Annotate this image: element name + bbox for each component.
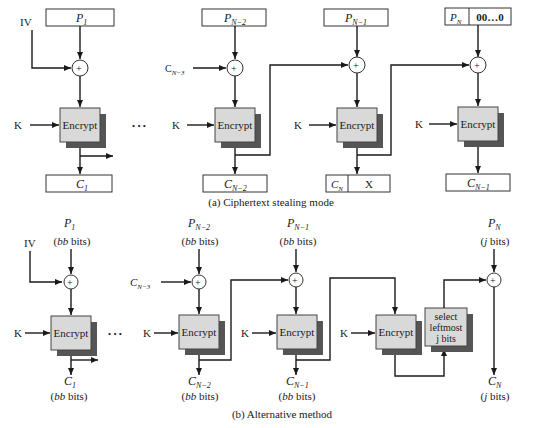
svg-text:Encrypt: Encrypt (340, 119, 375, 131)
caption-b: (b) Alternative method (232, 408, 333, 421)
svg-text:PN: PN (487, 216, 501, 232)
svg-text:Encrypt: Encrypt (280, 326, 315, 338)
svg-text:K: K (241, 327, 249, 339)
panel-a: P1 IV + Encrypt K C1 • • • PN−2 CN−3 (14, 8, 511, 209)
svg-text:K: K (340, 327, 348, 339)
svg-text:CN−2: CN−2 (188, 374, 211, 390)
svg-text:+: + (292, 275, 298, 286)
svg-text:Encrypt: Encrypt (379, 326, 414, 338)
svg-text:X: X (365, 178, 373, 190)
key-label: K (14, 119, 22, 131)
svg-text:PN−2: PN−2 (187, 216, 210, 232)
top-col-2: PN−2 CN−3 + Encrypt K CN−2 (a) Ciphertex… (165, 9, 348, 209)
bottom-col-1: P1 (bb bits) IV + Encrypt K C1 (bb bits) (14, 216, 98, 403)
svg-text:(bb bits): (bb bits) (182, 390, 219, 403)
svg-text:K: K (14, 327, 22, 339)
svg-text:+: + (67, 277, 73, 288)
svg-text:(bb bits): (bb bits) (54, 235, 91, 248)
top-col-4: PN 00…0 + Encrypt K CN−1 (415, 8, 511, 192)
top-col-3: PN−1 + Encrypt K CN X (294, 9, 469, 193)
svg-text:K: K (415, 118, 423, 130)
svg-text:+: + (195, 277, 201, 288)
svg-text:+: + (490, 275, 496, 286)
iv-wire (32, 30, 71, 68)
svg-text:+: + (353, 60, 359, 71)
svg-text:j bits: j bits (435, 333, 456, 344)
iv-label: IV (20, 16, 32, 28)
svg-text:CN−3: CN−3 (165, 63, 185, 77)
svg-text:+: + (474, 60, 480, 71)
svg-text:Encrypt: Encrypt (461, 118, 496, 130)
svg-text:(j bits): (j bits) (480, 235, 509, 248)
cts-diagram: P1 IV + Encrypt K C1 • • • PN−2 CN−3 (0, 0, 548, 428)
svg-text:CN−3: CN−3 (130, 276, 151, 291)
svg-text:Encrypt: Encrypt (63, 119, 98, 131)
svg-text:(bb bits): (bb bits) (51, 390, 88, 403)
svg-text:Encrypt: Encrypt (218, 119, 253, 131)
svg-text:(bb bits): (bb bits) (280, 235, 317, 248)
bottom-col-5: PN (j bits) + CN (j bits) (480, 216, 509, 403)
bottom-col-4: Encrypt K select leftmost j bits (340, 280, 486, 376)
svg-text:+: + (231, 63, 237, 74)
svg-text:PN−1: PN−1 (286, 216, 309, 232)
svg-text:(bb bits): (bb bits) (279, 390, 316, 403)
panel-b: P1 (bb bits) IV + Encrypt K C1 (bb bits)… (14, 216, 510, 421)
svg-text:00…0: 00…0 (476, 11, 504, 23)
svg-text:K: K (143, 327, 151, 339)
svg-text:• • •: • • • (108, 329, 122, 339)
svg-text:K: K (294, 119, 302, 131)
bottom-col-3: PN−1 (bb bits) + Encrypt K CN−1 (bb bits… (232, 216, 395, 421)
svg-text:Encrypt: Encrypt (182, 326, 217, 338)
svg-text:IV: IV (24, 237, 36, 249)
ellipsis: • • • (132, 121, 146, 131)
svg-text:(bb bits): (bb bits) (182, 235, 219, 248)
caption-a: (a) Ciphertext stealing mode (208, 196, 334, 209)
svg-text:Encrypt: Encrypt (54, 327, 89, 339)
bottom-col-2: PN−2 (bb bits) CN−3 + Encrypt K CN−2 (bb… (130, 216, 288, 403)
svg-text:CN: CN (488, 374, 502, 390)
svg-text:CN−1: CN−1 (286, 374, 309, 390)
svg-text:select: select (435, 311, 458, 322)
svg-text:P1: P1 (63, 216, 75, 232)
svg-text:+: + (76, 63, 82, 74)
svg-text:(j bits): (j bits) (480, 390, 509, 403)
svg-text:C1: C1 (64, 374, 76, 390)
svg-text:leftmost: leftmost (430, 322, 463, 333)
top-col-1: P1 IV + Encrypt K C1 (14, 9, 114, 193)
svg-text:K: K (172, 119, 180, 131)
